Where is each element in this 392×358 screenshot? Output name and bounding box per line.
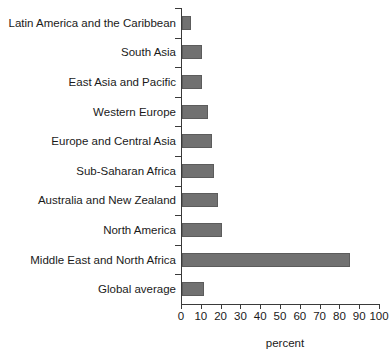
chart-category-row: Australia and New Zealand [0,186,392,216]
x-axis-tick-label: 30 [234,310,247,323]
x-axis-tick [240,304,241,309]
x-axis-tick [320,304,321,309]
x-axis-tick [221,304,222,309]
bar [182,16,191,30]
x-axis-tick [260,304,261,309]
y-axis-tick [175,215,181,216]
x-axis-tick [280,304,281,309]
y-axis-tick [175,156,181,157]
x-axis-tick-label: 80 [333,310,346,323]
chart-category-row: Sub-Saharan Africa [0,156,392,186]
x-axis-tick-label: 70 [313,310,326,323]
x-axis-title: percent [0,337,392,349]
bar [182,105,208,119]
chart-category-row: Europe and Central Asia [0,126,392,156]
category-label: Sub-Saharan Africa [76,164,176,177]
category-label: East Asia and Pacific [69,75,176,88]
y-axis-tick [175,274,181,275]
x-axis-tick-label: 90 [353,310,366,323]
bar [182,193,218,207]
x-axis-tick [201,304,202,309]
x-axis-tick-label: 0 [178,310,184,323]
bar [182,223,222,237]
bar-chart: Latin America and the CaribbeanSouth Asi… [0,0,392,358]
chart-category-row: Latin America and the Caribbean [0,8,392,38]
category-label: North America [103,223,176,236]
category-label: Latin America and the Caribbean [9,16,177,29]
y-axis-tick [175,38,181,39]
category-label: Europe and Central Asia [51,135,176,148]
x-axis-tick-label: 10 [194,310,207,323]
bar [182,164,214,178]
chart-category-row: South Asia [0,38,392,68]
x-axis-tick [339,304,340,309]
category-label: South Asia [121,46,176,59]
category-label: Middle East and North Africa [30,253,176,266]
chart-category-row: North America [0,215,392,245]
x-axis-title-label: percent [266,337,304,349]
category-label: Global average [98,283,176,296]
x-axis-tick [300,304,301,309]
y-axis-tick [175,186,181,187]
y-axis-tick [175,245,181,246]
x-axis-tick-label: 60 [293,310,306,323]
x-axis-tick [379,304,380,309]
chart-category-row: Middle East and North Africa [0,245,392,275]
x-axis-tick-label: 40 [254,310,267,323]
bar [182,282,204,296]
x-axis-tick-label: 50 [274,310,287,323]
bar [182,75,202,89]
bar [182,45,202,59]
category-label: Australia and New Zealand [38,194,176,207]
y-axis-tick [175,8,181,9]
y-axis-tick [175,126,181,127]
y-axis-tick [175,97,181,98]
chart-category-row: East Asia and Pacific [0,67,392,97]
x-axis-tick-label: 20 [214,310,227,323]
x-axis-tick-label: 100 [369,310,388,323]
chart-category-row: Global average [0,274,392,304]
bar [182,134,212,148]
x-axis-tick [359,304,360,309]
category-label: Western Europe [93,105,176,118]
x-axis-tick [181,304,182,309]
y-axis-tick [175,67,181,68]
bar [182,253,350,267]
chart-category-row: Western Europe [0,97,392,127]
